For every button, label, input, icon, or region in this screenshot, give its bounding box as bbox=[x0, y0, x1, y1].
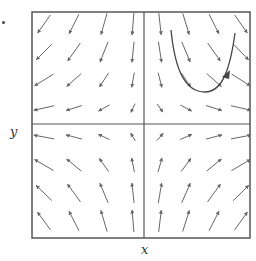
field-arrow-icon bbox=[208, 43, 221, 61]
field-arrow-icon bbox=[101, 210, 107, 231]
field-arrow-icon bbox=[208, 184, 221, 202]
field-arrow-icon bbox=[98, 134, 109, 139]
corner-dot-mark bbox=[2, 21, 5, 24]
field-arrow-icon bbox=[182, 42, 190, 62]
field-arrow-icon bbox=[35, 160, 54, 171]
field-arrow-icon bbox=[235, 212, 248, 230]
field-arrow-icon bbox=[158, 158, 162, 172]
field-arrow-icon bbox=[206, 135, 222, 139]
field-arrow-icon bbox=[182, 183, 191, 203]
field-arrow-icon bbox=[157, 104, 163, 112]
field-arrow-icon bbox=[181, 73, 190, 87]
x-axis-label: x bbox=[141, 242, 148, 257]
field-arrow-icon bbox=[209, 211, 219, 231]
field-arrow-icon bbox=[34, 135, 54, 139]
field-arrow-icon bbox=[181, 158, 191, 171]
field-arrow-icon bbox=[231, 135, 251, 139]
field-arrow-icon bbox=[38, 212, 51, 230]
field-arrow-icon bbox=[132, 210, 134, 232]
field-arrow-icon bbox=[232, 74, 251, 86]
field-arrow-icon bbox=[100, 73, 109, 87]
field-arrow-icon bbox=[180, 105, 191, 111]
field-arrow-icon bbox=[36, 44, 51, 60]
field-arrow-icon bbox=[183, 211, 190, 232]
field-arrow-icon bbox=[231, 106, 251, 111]
y-axis-label: y bbox=[10, 124, 17, 139]
field-arrow-icon bbox=[157, 133, 163, 140]
field-arrow-icon bbox=[69, 211, 79, 231]
field-arrow-icon bbox=[34, 106, 54, 111]
field-arrow-icon bbox=[67, 159, 82, 171]
field-arrow-icon bbox=[131, 133, 136, 141]
vector-field-arrows bbox=[34, 13, 251, 232]
field-arrow-icon bbox=[158, 42, 161, 63]
field-arrow-icon bbox=[101, 13, 107, 34]
field-arrow-icon bbox=[35, 74, 54, 86]
field-arrow-icon bbox=[99, 105, 110, 111]
field-arrow-icon bbox=[66, 106, 82, 111]
field-arrow-icon bbox=[158, 73, 162, 88]
field-arrow-icon bbox=[68, 184, 81, 202]
field-arrow-icon bbox=[99, 158, 108, 171]
field-arrow-icon bbox=[132, 158, 135, 172]
field-arrow-icon bbox=[232, 159, 251, 170]
field-arrow-icon bbox=[132, 183, 134, 203]
field-arrow-icon bbox=[158, 183, 161, 203]
field-arrow-icon bbox=[100, 42, 108, 62]
field-arrow-icon bbox=[67, 74, 82, 87]
field-arrow-icon bbox=[36, 185, 52, 200]
field-arrow-icon bbox=[66, 135, 82, 139]
field-arrow-icon bbox=[68, 43, 81, 61]
field-arrow-icon bbox=[235, 15, 248, 33]
field-arrow-icon bbox=[180, 135, 192, 140]
field-arrow-icon bbox=[233, 44, 248, 60]
field-arrow-icon bbox=[207, 159, 222, 171]
field-arrow-icon bbox=[132, 13, 134, 35]
vector-field-diagram bbox=[0, 0, 256, 261]
field-arrow-icon bbox=[183, 14, 189, 35]
field-arrow-icon bbox=[69, 14, 79, 34]
field-arrow-icon bbox=[206, 106, 222, 111]
field-arrow-icon bbox=[38, 15, 51, 33]
trajectory-curve bbox=[171, 30, 235, 92]
field-arrow-icon bbox=[159, 13, 161, 35]
field-arrow-icon bbox=[100, 183, 108, 203]
field-arrow-icon bbox=[131, 104, 135, 113]
field-arrow-icon bbox=[159, 210, 162, 232]
field-arrow-icon bbox=[233, 185, 249, 201]
plot-frame bbox=[32, 12, 250, 238]
field-arrow-icon bbox=[132, 42, 134, 63]
field-arrow-icon bbox=[209, 14, 219, 34]
field-arrow-icon bbox=[132, 73, 135, 88]
